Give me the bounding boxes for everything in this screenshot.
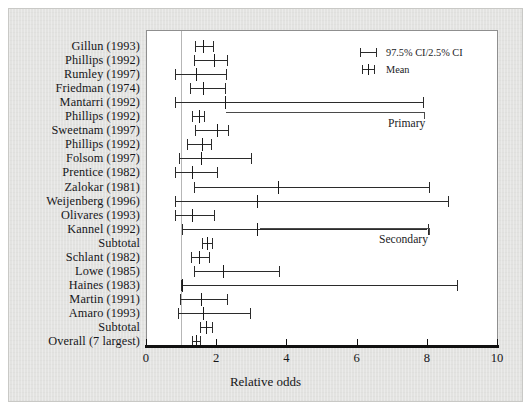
plot-frame (146, 30, 498, 346)
row-label: Prentice (1982) (62, 165, 140, 179)
row-label: Phillips (1992) (65, 53, 140, 67)
legend-label-ci: 97.5% CI/2.5% CI (386, 47, 463, 58)
row-label: Mantarri (1992) (60, 95, 140, 109)
x-tick-label: 8 (424, 351, 430, 366)
legend-label-mean: Mean (386, 64, 409, 75)
null-reference-line (181, 31, 182, 345)
row-label: Amaro (1993) (69, 306, 140, 320)
row-label: Friedman (1974) (56, 81, 141, 95)
primary-group-label: Primary (388, 117, 425, 130)
x-tick-label: 6 (353, 351, 359, 366)
row-label: Schlant (1982) (66, 250, 140, 264)
row-label: Phillips (1992) (65, 137, 140, 151)
x-tick (286, 339, 287, 345)
forest-plot-figure: Gillun (1993)Phillips (1992)Rumley (1997… (0, 0, 531, 410)
row-label: Overall (7 largest) (48, 334, 140, 348)
x-tick (357, 339, 358, 345)
row-label: Folsom (1997) (66, 151, 140, 165)
x-tick (497, 339, 498, 345)
x-axis-line (145, 345, 499, 348)
study-label-column: Gillun (1993)Phillips (1992)Rumley (1997… (0, 30, 143, 346)
x-tick-label: 2 (213, 351, 219, 366)
secondary-group-bracket-tick (429, 228, 430, 235)
mean-tick-icon (358, 63, 380, 77)
row-label: Martin (1991) (69, 292, 140, 306)
x-tick-label: 0 (143, 351, 149, 366)
x-tick (216, 339, 217, 345)
row-label: Sweetnam (1997) (51, 123, 140, 137)
row-label: Subtotal (98, 320, 140, 334)
x-tick (146, 339, 147, 345)
x-tick-label: 4 (283, 351, 289, 366)
secondary-group-label: Secondary (379, 233, 428, 246)
x-axis-title: Relative odds (0, 374, 531, 390)
row-label: Subtotal (98, 236, 140, 250)
row-label: Kannel (1992) (67, 222, 140, 236)
row-label: Olivares (1993) (61, 208, 140, 222)
row-label: Rumley (1997) (64, 67, 140, 81)
row-label: Lowe (1985) (75, 264, 140, 278)
x-tick-label: 10 (491, 351, 504, 366)
row-label: Zalokar (1981) (65, 180, 141, 194)
row-label: Haines (1983) (69, 278, 140, 292)
row-label: Gillun (1993) (71, 39, 140, 53)
ci-bar-icon (358, 46, 380, 60)
x-tick (427, 339, 428, 345)
row-label: Weijenberg (1996) (46, 194, 140, 208)
primary-group-bracket (226, 112, 424, 113)
row-label: Phillips (1992) (65, 109, 140, 123)
secondary-group-bracket (260, 228, 429, 229)
